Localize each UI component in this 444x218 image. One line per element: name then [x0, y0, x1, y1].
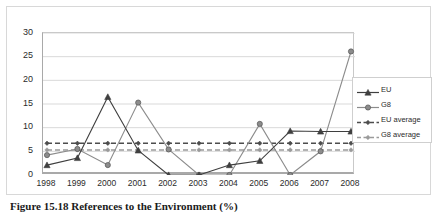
- legend-item-g8-average[interactable]: G8 average: [356, 127, 429, 142]
- legend-label: EU: [381, 85, 391, 94]
- x-axis-label-1999: 1999: [59, 179, 93, 188]
- x-axis-label-2007: 2007: [303, 179, 337, 188]
- x-axis-label-2006: 2006: [272, 179, 306, 188]
- y-axis-label-20: 20: [9, 75, 33, 84]
- legend-label: G8: [381, 100, 391, 109]
- x-axis-label-2005: 2005: [242, 179, 276, 188]
- x-axis-label-2002: 2002: [151, 179, 185, 188]
- legend-swatch-icon: [356, 129, 380, 140]
- legend-swatch-icon: [356, 84, 380, 95]
- y-axis-label-10: 10: [9, 122, 33, 131]
- figure-container: 051015202530 199819992000200120022003200…: [0, 0, 444, 218]
- legend-item-g8[interactable]: G8: [356, 97, 429, 112]
- y-axis-label-25: 25: [9, 51, 33, 60]
- figure-caption: Figure 15.18 References to the Environme…: [10, 200, 430, 212]
- chart-frame: 051015202530 199819992000200120022003200…: [6, 6, 431, 195]
- legend-item-eu-average[interactable]: EU average: [356, 112, 429, 127]
- y-axis-label-0: 0: [9, 170, 33, 179]
- plot-area: [42, 32, 354, 174]
- x-axis-label-2008: 2008: [333, 179, 367, 188]
- y-axis-label-30: 30: [9, 28, 33, 37]
- legend-label: EU average: [381, 115, 421, 124]
- legend-swatch-icon: [356, 114, 380, 125]
- chart-svg: [43, 33, 355, 175]
- legend-label: G8 average: [381, 130, 420, 139]
- x-axis-label-1998: 1998: [29, 179, 63, 188]
- x-axis-label-2004: 2004: [211, 179, 245, 188]
- legend-item-eu[interactable]: EU: [356, 82, 429, 97]
- y-axis-label-5: 5: [9, 146, 33, 155]
- x-axis-label-2000: 2000: [90, 179, 124, 188]
- chart-legend: EUG8EU averageG8 average: [352, 77, 432, 143]
- y-axis-label-15: 15: [9, 99, 33, 108]
- x-axis-label-2001: 2001: [120, 179, 154, 188]
- legend-swatch-icon: [356, 99, 380, 110]
- x-axis-label-2003: 2003: [181, 179, 215, 188]
